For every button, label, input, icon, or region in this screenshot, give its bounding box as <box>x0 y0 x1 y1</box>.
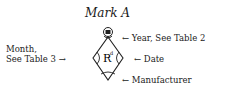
date-label: ← Date <box>134 54 164 64</box>
manufacturer-label: ← Manufacturer <box>122 75 192 85</box>
month-label-line2: See Table 3 → <box>6 54 66 64</box>
svg-text:d: d <box>110 50 114 56</box>
month-label-line1: Month, <box>6 44 37 54</box>
year-label: ← Year, See Table 2 <box>122 33 205 43</box>
